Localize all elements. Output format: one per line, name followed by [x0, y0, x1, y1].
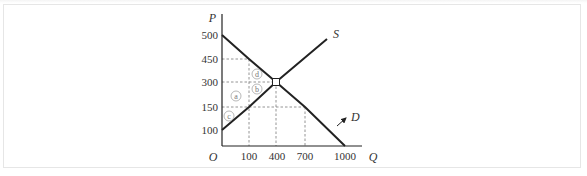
y-tick-100: 100	[202, 124, 219, 136]
x-tick-700: 700	[297, 150, 314, 162]
region-c-label: c	[227, 112, 231, 121]
p-axis-label: P	[208, 11, 217, 25]
y-tick-450: 450	[202, 53, 219, 65]
y-tick-150: 150	[202, 101, 219, 113]
demand-curve-label: D	[350, 110, 360, 124]
supply-demand-diagram: a b c d P Q O S D 500 450 300 150 100 10…	[0, 0, 587, 176]
equilibrium-point	[273, 79, 280, 86]
y-tick-500: 500	[202, 29, 219, 41]
region-d-label: d	[255, 70, 259, 79]
supply-curve-label: S	[333, 27, 339, 41]
region-b-label: b	[255, 85, 259, 94]
x-tick-400: 400	[269, 150, 286, 162]
x-tick-100: 100	[241, 150, 258, 162]
q-axis-label: Q	[369, 150, 378, 164]
demand-arrow-icon	[337, 118, 346, 126]
demand-curve	[222, 35, 345, 146]
region-a-label: a	[234, 92, 238, 101]
origin-label: O	[209, 150, 218, 164]
y-tick-300: 300	[202, 76, 219, 88]
x-tick-1000: 1000	[334, 150, 357, 162]
